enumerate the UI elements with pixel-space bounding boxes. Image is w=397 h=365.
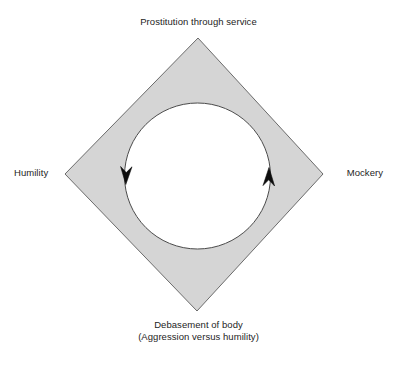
cycle-diagram-graphic (0, 0, 397, 365)
diagram-canvas: Prostitution through service Humility Mo… (0, 0, 397, 365)
label-top-prostitution-through-service: Prostitution through service (0, 16, 397, 28)
label-bottom-line1: Debasement of body (154, 319, 243, 330)
label-bottom-line2: (Aggression versus humility) (0, 331, 397, 343)
label-left-humility: Humility (14, 167, 48, 179)
label-bottom-debasement-of-body: Debasement of body (Aggression versus hu… (0, 319, 397, 342)
label-right-mockery: Mockery (347, 167, 383, 179)
inner-circle-outline (125, 103, 271, 249)
